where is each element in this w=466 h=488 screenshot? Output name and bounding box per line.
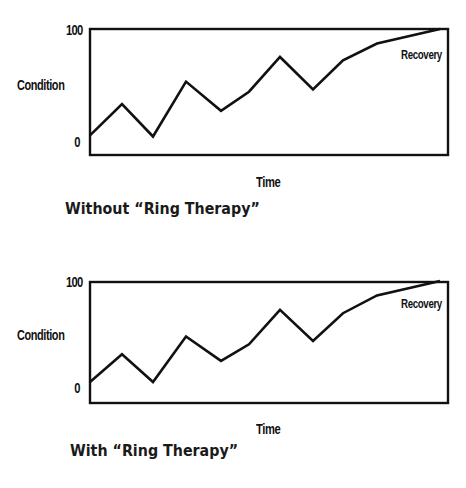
recovery-annotation: Recovery <box>401 297 442 310</box>
condition-line <box>90 281 440 382</box>
y-axis-label: Condition <box>17 328 64 342</box>
plot-area <box>0 0 466 488</box>
chart-with-ring-therapy: 100 0 Condition Recovery Time With “Ring… <box>0 0 466 488</box>
y-tick-min: 0 <box>75 381 80 395</box>
plot-frame <box>90 282 448 403</box>
chart-caption: With “Ring Therapy” <box>70 444 238 459</box>
y-tick-max: 100 <box>66 275 82 289</box>
x-axis-label: Time <box>256 422 280 436</box>
